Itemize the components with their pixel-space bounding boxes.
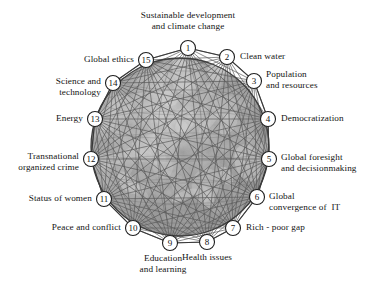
node-number: 4 [266, 114, 271, 124]
node-label-4: Democratization [281, 113, 344, 124]
node-number: 14 [109, 78, 119, 88]
node-marker-6[interactable]: 6 [250, 190, 265, 205]
node-label-3: Population and resources [266, 69, 318, 91]
node-number: 6 [255, 192, 260, 202]
node-number: 3 [252, 76, 257, 86]
node-label-12: Transnational organized crime [18, 151, 79, 173]
node-number: 11 [100, 194, 109, 204]
node-label-1: Sustainable development and climate chan… [0, 10, 384, 32]
node-marker-5[interactable]: 5 [262, 152, 277, 167]
node-number: 15 [142, 55, 152, 65]
node-number: 9 [168, 238, 173, 248]
node-label-14: Science and technology [56, 76, 101, 98]
node-label-5: Global foresight and decisionmaking [281, 152, 357, 174]
node-marker-11[interactable]: 11 [97, 192, 112, 207]
node-label-10: Peace and conflict [52, 222, 121, 233]
node-label-6: Global convergence of IT [269, 191, 340, 213]
node-marker-14[interactable]: 14 [106, 76, 121, 91]
node-label-7: Rich - poor gap [246, 222, 305, 233]
node-marker-8[interactable]: 8 [200, 235, 215, 250]
node-label-11: Status of women [29, 193, 92, 204]
diagram-canvas: 123456789101112131415 [0, 0, 391, 293]
global-challenges-diagram: 123456789101112131415 Sustainable develo… [0, 0, 391, 293]
node-number: 1 [186, 43, 191, 53]
node-marker-10[interactable]: 10 [126, 221, 141, 236]
node-label-2: Clean water [240, 51, 285, 62]
node-label-9: Education and learning [0, 253, 359, 275]
node-number: 5 [267, 154, 272, 164]
node-marker-9[interactable]: 9 [163, 236, 178, 251]
node-number: 7 [231, 223, 236, 233]
node-marker-12[interactable]: 12 [84, 152, 99, 167]
node-number: 8 [205, 237, 210, 247]
node-marker-3[interactable]: 3 [247, 74, 262, 89]
node-marker-4[interactable]: 4 [261, 112, 276, 127]
node-marker-13[interactable]: 13 [88, 112, 103, 127]
node-label-15: Global ethics [84, 54, 134, 65]
node-marker-7[interactable]: 7 [226, 221, 241, 236]
node-marker-2[interactable]: 2 [220, 50, 235, 65]
node-number: 10 [129, 223, 139, 233]
node-marker-1[interactable]: 1 [181, 41, 196, 56]
node-marker-15[interactable]: 15 [139, 53, 154, 68]
node-number: 12 [87, 154, 96, 164]
node-number: 13 [91, 114, 101, 124]
node-label-13: Energy [56, 113, 83, 124]
node-number: 2 [225, 52, 230, 62]
